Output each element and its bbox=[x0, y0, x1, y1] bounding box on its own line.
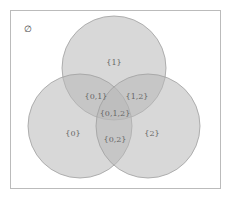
region-label-0-2: {0,2} bbox=[104, 135, 127, 144]
region-label-only-1: {1} bbox=[106, 58, 121, 67]
region-label-only-2: {2} bbox=[144, 129, 159, 138]
empty-set-label: ∅ bbox=[24, 24, 32, 34]
region-label-0-1: {0,1} bbox=[85, 92, 108, 101]
region-label-only-0: {0} bbox=[65, 129, 80, 138]
venn-diagram: ∅ {1} {0} {2} {0,1} {1,2} {0,2} {0,1,2} bbox=[0, 0, 227, 201]
region-label-1-2: {1,2} bbox=[126, 92, 149, 101]
region-label-0-1-2: {0,1,2} bbox=[100, 109, 131, 118]
set-2-circle bbox=[96, 74, 200, 178]
